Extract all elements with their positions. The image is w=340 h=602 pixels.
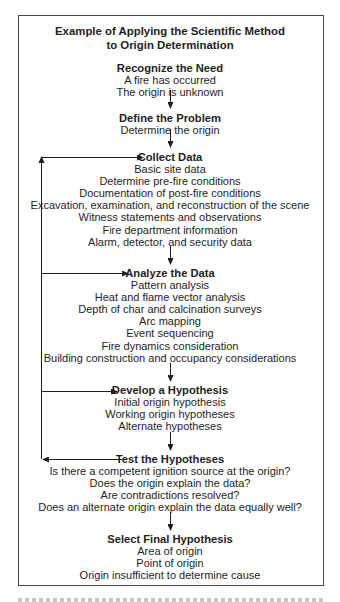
step-item: Pattern analysis [0, 279, 340, 291]
step-item: Alarm, detector, and security data [0, 236, 340, 248]
step-item: Documentation of post-fire conditions [0, 187, 340, 199]
step-recognize-the-need: Recognize the Need A fire has occurred T… [0, 62, 340, 98]
step-heading: Develop a Hypothesis [0, 384, 340, 396]
step-collect-data: Collect Data Basic site data Determine p… [0, 151, 340, 248]
step-item: Is there a competent ignition source at … [0, 465, 340, 477]
title-line-2: to Origin Determination [0, 38, 340, 52]
step-heading: Test the Hypotheses [0, 453, 340, 465]
step-item: The origin is unknown [0, 86, 340, 98]
step-item: Working origin hypotheses [0, 408, 340, 420]
step-item: Determine the origin [0, 124, 340, 136]
step-item: Fire department information [0, 224, 340, 236]
step-heading: Define the Problem [0, 112, 340, 124]
step-develop-a-hypothesis: Develop a Hypothesis Initial origin hypo… [0, 384, 340, 432]
step-item: Are contradictions resolved? [0, 489, 340, 501]
step-item: Excavation, examination, and reconstruct… [0, 199, 340, 211]
step-item: Does the origin explain the data? [0, 477, 340, 489]
title-line-1: Example of Applying the Scientific Metho… [0, 24, 340, 38]
step-heading: Collect Data [0, 151, 340, 163]
step-item: Depth of char and calcination surveys [0, 303, 340, 315]
step-item: Event sequencing [0, 327, 340, 339]
step-item: Initial origin hypothesis [0, 396, 340, 408]
step-item: Basic site data [0, 163, 340, 175]
step-item: Arc mapping [0, 315, 340, 327]
step-item: Heat and flame vector analysis [0, 291, 340, 303]
step-analyze-the-data: Analyze the Data Pattern analysis Heat a… [0, 267, 340, 364]
step-item: Fire dynamics consideration [0, 340, 340, 352]
cropped-caption [18, 598, 326, 602]
step-item: Does an alternate origin explain the dat… [0, 501, 340, 513]
step-select-final-hypothesis: Select Final Hypothesis Area of origin P… [0, 533, 340, 581]
step-item: Determine pre-fire conditions [0, 175, 340, 187]
step-item: A fire has occurred [0, 74, 340, 86]
step-heading: Recognize the Need [0, 62, 340, 74]
diagram-title: Example of Applying the Scientific Metho… [0, 24, 340, 52]
step-heading: Analyze the Data [0, 267, 340, 279]
step-item: Building construction and occupancy cons… [0, 352, 340, 364]
step-item: Alternate hypotheses [0, 420, 340, 432]
step-item: Origin insufficient to determine cause [0, 569, 340, 581]
step-item: Witness statements and observations [0, 211, 340, 223]
step-define-the-problem: Define the Problem Determine the origin [0, 112, 340, 136]
step-item: Point of origin [0, 557, 340, 569]
step-test-the-hypotheses: Test the Hypotheses Is there a competent… [0, 453, 340, 513]
step-item: Area of origin [0, 545, 340, 557]
step-heading: Select Final Hypothesis [0, 533, 340, 545]
